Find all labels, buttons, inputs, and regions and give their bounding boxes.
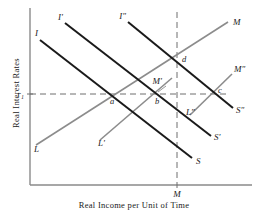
curve-I-double-prime-S-double-prime	[128, 22, 233, 108]
point-label-b: b	[155, 96, 159, 106]
label-S-prime: S'	[214, 132, 222, 142]
y-axis-title: Real Interest Rates	[11, 43, 21, 143]
label-M-prime: M'	[152, 76, 163, 86]
curve-L-prime-M-prime	[100, 78, 172, 140]
point-label-a: a	[110, 96, 114, 106]
label-L: L	[33, 144, 39, 154]
label-M-double-prime: M″	[233, 64, 245, 74]
label-S-double-prime: S″	[236, 105, 245, 115]
plot-canvas: I I' I″ M M' M″ L L' L″ S S' S″ a b c d …	[0, 0, 257, 214]
x-tick-label-M: M	[172, 189, 181, 199]
economics-diagram-figure: I I' I″ M M' M″ L L' L″ S S' S″ a b c d …	[0, 0, 257, 214]
x-axis-title: Real Income per Unit of Time	[54, 200, 214, 210]
label-I: I	[34, 28, 39, 38]
label-L-double-prime: L″	[185, 107, 195, 117]
label-I-prime: I'	[57, 12, 64, 22]
label-I-double-prime: I″	[118, 11, 126, 21]
label-M: M	[232, 17, 241, 27]
point-label-c: c	[218, 85, 222, 95]
label-L-prime: L'	[97, 138, 106, 148]
curve-I-prime-S-prime	[65, 23, 211, 136]
curve-I-S	[40, 40, 192, 158]
label-S: S	[196, 156, 201, 166]
point-label-d: d	[182, 54, 187, 64]
